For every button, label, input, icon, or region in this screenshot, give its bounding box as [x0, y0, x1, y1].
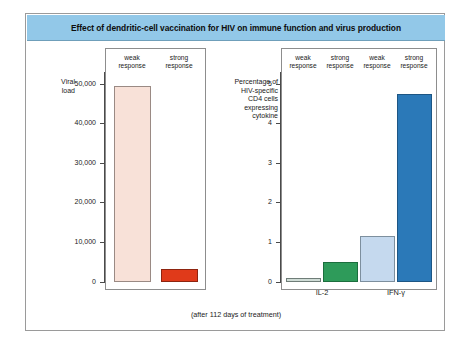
right-ytick-5: 5: [256, 80, 272, 87]
right-y-axis-title-line3: CD4 cells: [216, 95, 278, 104]
right-col-label-il2-weak: weak response: [284, 54, 322, 70]
right-xlabel-ifn: IFN-γ: [376, 288, 416, 297]
chart-viral-load: Viral load 50,000 40,000 30,000 20,000 1…: [26, 42, 216, 310]
figure-title-bar: Effect of dendritic-cell vaccination for…: [27, 15, 445, 41]
left-y-axis-title-line2: load: [31, 87, 75, 96]
right-col-label-il2-weak-text: weak response: [284, 54, 322, 70]
left-col-label-weak: weak response: [110, 54, 154, 70]
right-ytick-0: 0: [256, 278, 272, 285]
bar-viral-weak: [114, 86, 151, 282]
bar-ifn-strong: [397, 94, 432, 282]
figure-footnote: (after 112 days of treatment): [26, 310, 446, 319]
bar-il2-weak: [286, 278, 321, 282]
right-y-axis-title-line4: expressing: [216, 104, 278, 113]
right-col-label-ifn-strong-text: strong response: [395, 54, 433, 70]
right-col-label-il2-strong: strong response: [321, 54, 359, 70]
right-col-label-ifn-weak: weak response: [358, 54, 396, 70]
right-col-label-ifn-strong: strong response: [395, 54, 433, 70]
right-ytick-3: 3: [256, 159, 272, 166]
left-ytick-50000: 50,000: [44, 80, 96, 87]
left-col-label-strong: strong response: [157, 54, 201, 70]
left-col-label-weak-text: weak response: [110, 54, 154, 70]
chart-cytokine-expression: Percentage of HIV-specific CD4 cells exp…: [216, 42, 446, 310]
right-xlabel-il2: IL-2: [302, 288, 342, 297]
left-col-label-strong-text: strong response: [157, 54, 201, 70]
left-ytick-10000: 10,000: [44, 238, 96, 245]
bar-il2-strong: [323, 262, 358, 282]
right-col-label-il2-strong-text: strong response: [321, 54, 359, 70]
figure-title: Effect of dendritic-cell vaccination for…: [71, 23, 401, 33]
left-ytick-0: 0: [44, 278, 96, 285]
right-y-axis-title-line2: HIV-specific: [216, 87, 278, 96]
figure-panel: Effect of dendritic-cell vaccination for…: [25, 13, 445, 331]
bar-ifn-weak: [360, 236, 395, 282]
bar-viral-strong: [161, 269, 198, 282]
right-ytick-2: 2: [256, 198, 272, 205]
left-ytick-20000: 20,000: [44, 198, 96, 205]
right-ytick-1: 1: [256, 238, 272, 245]
right-col-label-ifn-weak-text: weak response: [358, 54, 396, 70]
left-ytick-30000: 30,000: [44, 159, 96, 166]
right-ytick-4: 4: [256, 119, 272, 126]
left-ytick-40000: 40,000: [44, 119, 96, 126]
